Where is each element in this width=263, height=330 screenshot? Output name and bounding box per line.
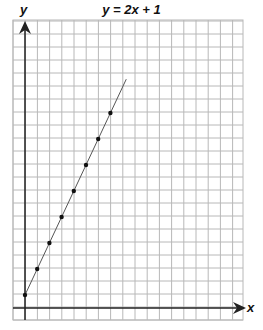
data-point [47,241,51,245]
grid-lines [13,20,243,320]
data-point [84,163,88,167]
data-point [23,293,27,297]
chart-plot-area [0,0,263,330]
data-point [59,215,63,219]
data-point [72,189,76,193]
data-point [96,137,100,141]
data-point [108,111,112,115]
axes [13,21,246,320]
data-point [35,267,39,271]
